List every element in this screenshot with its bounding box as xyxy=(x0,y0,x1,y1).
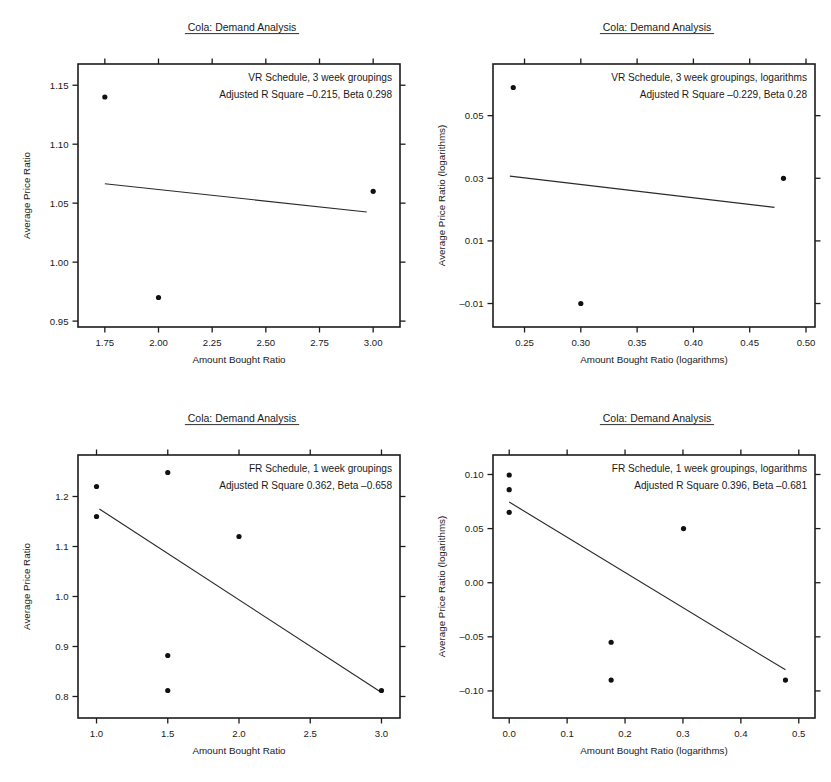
data-point xyxy=(609,678,614,683)
x-axis-tick-label: 0.5 xyxy=(792,728,805,739)
plot-annotation: VR Schedule, 3 week groupings xyxy=(248,72,392,83)
panel-title: Cola: Demand Analysis xyxy=(603,412,712,424)
x-axis-tick-label: 2.5 xyxy=(304,728,317,739)
x-axis-tick-label: 0.30 xyxy=(571,337,590,348)
chart-panel-bottom-left: Cola: Demand Analysis1.01.52.02.53.00.80… xyxy=(0,391,415,782)
four-panel-scatter-figure: Cola: Demand Analysis1.752.002.252.502.7… xyxy=(0,0,831,782)
x-axis-label: Amount Bought Ratio (logarithms) xyxy=(580,354,728,365)
x-axis-label: Amount Bought Ratio xyxy=(192,354,286,365)
y-axis-tick-label: 0.8 xyxy=(55,691,68,702)
chart-panel-bottom-right: Cola: Demand Analysis0.00.10.20.30.40.5–… xyxy=(415,391,830,782)
y-axis-label: Average Price Ratio xyxy=(21,542,32,629)
x-axis-tick-label: 2.0 xyxy=(232,728,245,739)
x-axis-tick-label: 0.50 xyxy=(797,337,816,348)
plot-annotation: Adjusted R Square –0.229, Beta 0.28 xyxy=(640,89,808,100)
data-point xyxy=(102,94,107,99)
data-point xyxy=(156,295,161,300)
data-point xyxy=(236,534,241,539)
y-axis-tick-label: 0.95 xyxy=(50,316,69,327)
chart-panel-top-right: Cola: Demand Analysis0.250.300.350.400.4… xyxy=(415,0,830,391)
data-point xyxy=(783,678,788,683)
x-axis-tick-label: 2.75 xyxy=(310,337,329,348)
data-point xyxy=(165,653,170,658)
y-axis-label: Average Price Ratio (logarithms) xyxy=(436,516,447,657)
plot-annotation: Adjusted R Square –0.215, Beta 0.298 xyxy=(219,89,392,100)
chart-panel-top-left: Cola: Demand Analysis1.752.002.252.502.7… xyxy=(0,0,415,391)
y-axis-tick-label: 1.00 xyxy=(50,257,69,268)
regression-fit-line xyxy=(510,176,775,207)
y-axis-tick-label: 0.05 xyxy=(465,110,484,121)
y-axis-tick-label: 1.2 xyxy=(55,491,68,502)
x-axis-tick-label: 0.1 xyxy=(560,728,573,739)
y-axis-label: Average Price Ratio xyxy=(21,151,32,238)
plot-annotation: Adjusted R Square 0.396, Beta –0.681 xyxy=(634,480,807,491)
y-axis-tick-label: 1.1 xyxy=(55,541,68,552)
x-axis-tick-label: 0.2 xyxy=(618,728,631,739)
data-point xyxy=(781,176,786,181)
x-axis-tick-label: 0.0 xyxy=(503,728,516,739)
data-point xyxy=(507,472,512,477)
x-axis-tick-label: 0.3 xyxy=(676,728,689,739)
plot-annotation: VR Schedule, 3 week groupings, logarithm… xyxy=(611,72,807,83)
data-point xyxy=(165,688,170,693)
y-axis-tick-label: 1.15 xyxy=(50,80,69,91)
x-axis-tick-label: 0.25 xyxy=(515,337,534,348)
x-axis-label: Amount Bought Ratio xyxy=(192,745,286,756)
y-axis-tick-label: 1.05 xyxy=(50,198,69,209)
plot-frame xyxy=(493,455,815,718)
data-point xyxy=(507,510,512,515)
data-point xyxy=(94,484,99,489)
x-axis-tick-label: 2.00 xyxy=(149,337,168,348)
x-axis-tick-label: 1.75 xyxy=(95,337,114,348)
y-axis-tick-label: 0.00 xyxy=(465,577,484,588)
y-axis-tick-label: –0.05 xyxy=(459,631,483,642)
plot-frame xyxy=(493,64,815,327)
data-point xyxy=(379,688,384,693)
y-axis-tick-label: –0.10 xyxy=(459,685,483,696)
x-axis-tick-label: 1.5 xyxy=(161,728,174,739)
x-axis-tick-label: 3.0 xyxy=(375,728,388,739)
x-axis-tick-label: 0.4 xyxy=(734,728,748,739)
y-axis-tick-label: 0.03 xyxy=(465,173,484,184)
plot-frame xyxy=(78,64,400,327)
data-point xyxy=(609,640,614,645)
y-axis-tick-label: –0.01 xyxy=(459,298,483,309)
x-axis-tick-label: 0.35 xyxy=(628,337,647,348)
regression-fit-line xyxy=(105,184,367,212)
data-point xyxy=(371,189,376,194)
y-axis-label: Average Price Ratio (logarithms) xyxy=(436,125,447,266)
y-axis-tick-label: 0.9 xyxy=(55,641,68,652)
y-axis-tick-label: 1.0 xyxy=(55,591,68,602)
x-axis-label: Amount Bought Ratio (logarithms) xyxy=(580,745,728,756)
data-point xyxy=(94,514,99,519)
data-point xyxy=(511,85,516,90)
x-axis-tick-label: 3.00 xyxy=(364,337,383,348)
plot-annotation: Adjusted R Square 0.362, Beta –0.658 xyxy=(219,480,392,491)
data-point xyxy=(578,301,583,306)
plot-frame xyxy=(78,455,400,718)
data-point xyxy=(165,470,170,475)
regression-fit-line xyxy=(509,502,785,670)
plot-annotation: FR Schedule, 1 week groupings, logarithm… xyxy=(612,463,807,474)
data-point xyxy=(507,487,512,492)
x-axis-tick-label: 2.25 xyxy=(203,337,222,348)
plot-annotation: FR Schedule, 1 week groupings xyxy=(249,463,392,474)
panel-title: Cola: Demand Analysis xyxy=(603,21,712,33)
y-axis-tick-label: 0.01 xyxy=(465,235,484,246)
x-axis-tick-label: 0.40 xyxy=(684,337,703,348)
panel-title: Cola: Demand Analysis xyxy=(188,412,297,424)
y-axis-tick-label: 0.10 xyxy=(465,469,484,480)
y-axis-tick-label: 1.10 xyxy=(50,139,69,150)
x-axis-tick-label: 1.0 xyxy=(90,728,103,739)
x-axis-tick-label: 0.45 xyxy=(740,337,759,348)
y-axis-tick-label: 0.05 xyxy=(465,523,484,534)
data-point xyxy=(681,526,686,531)
panel-title: Cola: Demand Analysis xyxy=(188,21,297,33)
x-axis-tick-label: 2.50 xyxy=(256,337,275,348)
